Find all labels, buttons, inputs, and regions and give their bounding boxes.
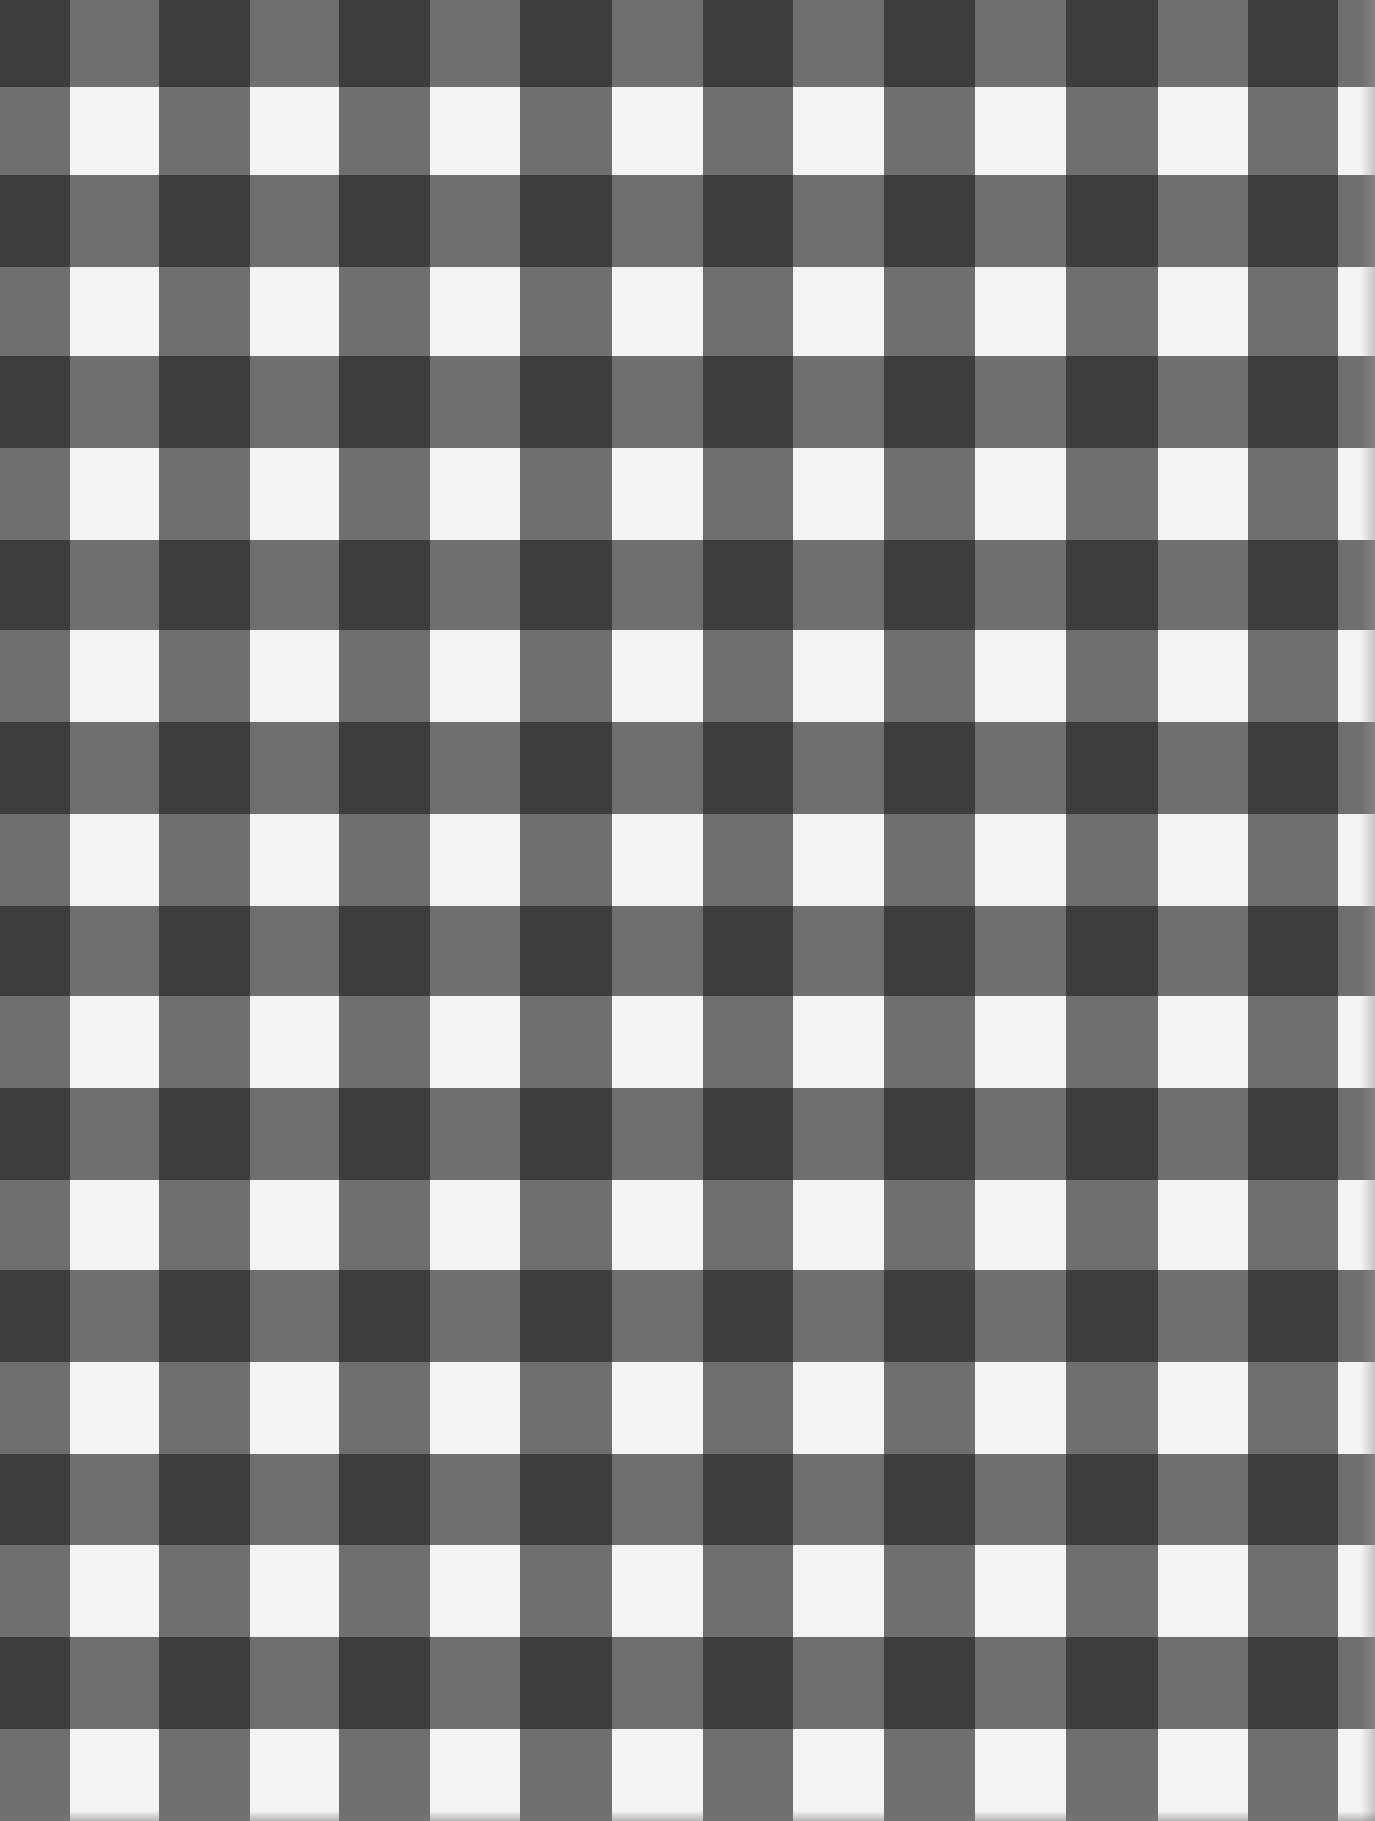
- gingham-cell: [159, 1637, 250, 1729]
- gingham-cell: [430, 1270, 520, 1362]
- gingham-cell: [975, 996, 1066, 1088]
- gingham-cell: [793, 996, 884, 1088]
- gingham-cell: [612, 267, 703, 356]
- gingham-cell: [70, 1637, 159, 1729]
- gingham-cell: [884, 1729, 975, 1821]
- gingham-cell: [250, 1454, 339, 1545]
- gingham-cell: [703, 1729, 793, 1821]
- gingham-cell: [793, 630, 884, 722]
- gingham-cell: [159, 0, 250, 87]
- gingham-cell: [612, 1637, 703, 1729]
- right-edge-shadow: [1361, 0, 1375, 1821]
- gingham-cell: [520, 1545, 612, 1637]
- gingham-cell: [520, 540, 612, 630]
- gingham-cell: [975, 1180, 1066, 1270]
- gingham-cell: [0, 630, 70, 722]
- gingham-cell: [159, 540, 250, 630]
- gingham-cell: [70, 448, 159, 540]
- gingham-cell: [339, 906, 430, 996]
- gingham-cell: [339, 1362, 430, 1454]
- gingham-cell: [703, 356, 793, 448]
- gingham-cell: [520, 1270, 612, 1362]
- gingham-cell: [339, 1729, 430, 1821]
- gingham-cell: [1248, 1729, 1338, 1821]
- gingham-cell: [520, 87, 612, 175]
- gingham-cell: [975, 267, 1066, 356]
- gingham-cell: [520, 996, 612, 1088]
- gingham-cell: [1158, 1729, 1248, 1821]
- gingham-cell: [612, 1454, 703, 1545]
- gingham-cell: [975, 356, 1066, 448]
- gingham-cell: [159, 175, 250, 267]
- gingham-cell: [1158, 0, 1248, 87]
- gingham-cell: [1158, 1180, 1248, 1270]
- gingham-cell: [430, 175, 520, 267]
- gingham-cell: [975, 1362, 1066, 1454]
- gingham-cell: [0, 1729, 70, 1821]
- gingham-cell: [612, 814, 703, 906]
- gingham-cell: [339, 630, 430, 722]
- gingham-cell: [793, 0, 884, 87]
- gingham-cell: [612, 1180, 703, 1270]
- gingham-cell: [430, 0, 520, 87]
- gingham-cell: [703, 814, 793, 906]
- gingham-cell: [1158, 814, 1248, 906]
- gingham-cell: [159, 1180, 250, 1270]
- gingham-cell: [975, 87, 1066, 175]
- gingham-cell: [159, 630, 250, 722]
- gingham-cell: [1158, 87, 1248, 175]
- gingham-cell: [250, 1637, 339, 1729]
- gingham-cell: [339, 814, 430, 906]
- gingham-cell: [339, 722, 430, 814]
- gingham-cell: [1158, 1270, 1248, 1362]
- gingham-cell: [0, 1088, 70, 1180]
- gingham-cell: [1158, 448, 1248, 540]
- gingham-cell: [70, 1362, 159, 1454]
- gingham-cell: [339, 540, 430, 630]
- gingham-cell: [612, 540, 703, 630]
- gingham-cell: [884, 1362, 975, 1454]
- gingham-cell: [975, 630, 1066, 722]
- gingham-cell: [793, 175, 884, 267]
- gingham-cell: [430, 267, 520, 356]
- gingham-cell: [1158, 722, 1248, 814]
- gingham-cell: [703, 1454, 793, 1545]
- gingham-cell: [975, 814, 1066, 906]
- gingham-cell: [430, 1362, 520, 1454]
- gingham-cell: [975, 0, 1066, 87]
- gingham-cell: [793, 87, 884, 175]
- gingham-cell: [520, 1454, 612, 1545]
- gingham-cell: [520, 267, 612, 356]
- gingham-cell: [0, 0, 70, 87]
- gingham-cell: [612, 722, 703, 814]
- gingham-cell: [793, 1270, 884, 1362]
- gingham-cell: [0, 1270, 70, 1362]
- gingham-cell: [703, 540, 793, 630]
- gingham-cell: [70, 356, 159, 448]
- gingham-cell: [975, 1454, 1066, 1545]
- gingham-cell: [703, 1088, 793, 1180]
- gingham-cell: [1248, 1637, 1338, 1729]
- gingham-cell: [612, 630, 703, 722]
- gingham-cell: [339, 1637, 430, 1729]
- gingham-cell: [430, 630, 520, 722]
- gingham-cell: [250, 87, 339, 175]
- gingham-cell: [793, 540, 884, 630]
- gingham-cell: [1158, 1545, 1248, 1637]
- gingham-cell: [1158, 540, 1248, 630]
- gingham-cell: [703, 87, 793, 175]
- gingham-cell: [1066, 87, 1158, 175]
- gingham-cell: [1066, 906, 1158, 996]
- gingham-cell: [975, 175, 1066, 267]
- gingham-cell: [430, 1637, 520, 1729]
- gingham-cell: [159, 722, 250, 814]
- gingham-cell: [250, 1270, 339, 1362]
- gingham-cell: [430, 1454, 520, 1545]
- gingham-cell: [159, 1454, 250, 1545]
- gingham-cell: [1066, 996, 1158, 1088]
- gingham-cell: [793, 267, 884, 356]
- gingham-cell: [520, 906, 612, 996]
- gingham-cell: [1248, 996, 1338, 1088]
- gingham-cell: [884, 906, 975, 996]
- gingham-cell: [250, 722, 339, 814]
